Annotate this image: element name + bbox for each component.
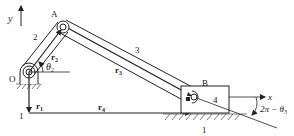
link-2-label: 2 xyxy=(33,32,38,42)
r1-label: r1 xyxy=(36,101,43,112)
link-1-label-left: 1 xyxy=(19,111,24,121)
theta2-label: θ2 xyxy=(46,61,54,73)
link-1-label-ground: 1 xyxy=(202,125,207,135)
y-axis-label: y xyxy=(7,13,13,24)
link-3-label: 3 xyxy=(135,45,140,55)
joint-o-label: O xyxy=(9,74,16,84)
slider-crank-diagram: y xyxy=(0,0,294,136)
pivot-a xyxy=(57,21,69,33)
joint-b-label: B xyxy=(202,78,208,88)
pivot-b xyxy=(191,91,198,103)
r2-label: r2 xyxy=(51,52,58,63)
x-axis-label: x xyxy=(267,92,272,102)
joint-a-label: A xyxy=(51,9,58,19)
theta3-label: 2π − θ3 xyxy=(260,104,287,115)
link-4-label: 4 xyxy=(213,95,218,105)
theta3-arc xyxy=(252,97,257,115)
vector-r4-tip-marker xyxy=(186,97,190,101)
ground-hatch-slider xyxy=(163,114,247,120)
r4-label: r4 xyxy=(98,102,105,113)
link-3-coupler xyxy=(60,20,198,104)
